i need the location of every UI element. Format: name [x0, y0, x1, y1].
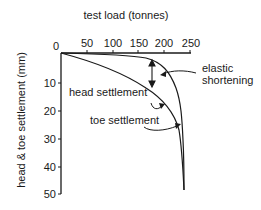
x-tick-250: 250 — [182, 37, 200, 49]
y-axis-label: head & toe settlement (mm) — [15, 52, 27, 188]
y-tick-20: 20 — [44, 105, 56, 117]
x-tick-100: 100 — [104, 37, 122, 49]
y-tick-30: 30 — [44, 133, 56, 145]
elastic-leader-arrowhead — [160, 71, 166, 77]
x-tick-150: 150 — [130, 37, 148, 49]
x-axis-label: test load (tonnes) — [84, 9, 169, 21]
toe-settlement-label: toe settlement — [90, 114, 159, 126]
x-tick-200: 200 — [155, 37, 173, 49]
elastic-shortening-arrow — [149, 60, 155, 87]
y-tick-50: 50 — [44, 188, 56, 200]
settlement-chart: test load (tonnes) 0 50 100 150 200 250 … — [0, 0, 261, 210]
toe-leader — [144, 126, 177, 130]
elastic-leader — [163, 71, 196, 74]
x-tick-50: 50 — [81, 37, 93, 49]
elastic-label-line2: shortening — [202, 74, 253, 86]
x-tick-0: 0 — [53, 40, 59, 52]
y-tick-40: 40 — [44, 161, 56, 173]
elastic-label-line1: elastic — [202, 62, 234, 74]
head-settlement-label: head settlement — [69, 86, 147, 98]
y-tick-10: 10 — [44, 77, 56, 89]
